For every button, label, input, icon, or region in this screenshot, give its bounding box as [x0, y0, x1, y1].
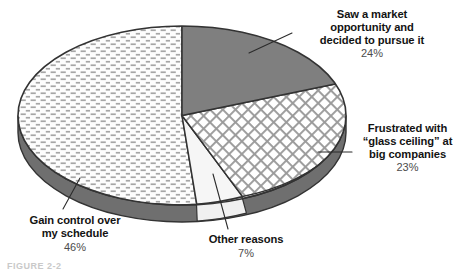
callout-other-reasons: Other reasons 7%: [186, 233, 306, 259]
callout-percent: 46%: [2, 241, 148, 254]
callout-market-opportunity: Saw a market opportunity and decided to …: [283, 8, 461, 60]
callout-glass-ceiling: Frustrated with “glass ceiling” at big c…: [352, 122, 463, 174]
callout-label-line: my schedule: [2, 227, 148, 240]
callout-percent: 24%: [283, 47, 461, 60]
callout-label-line: big companies: [352, 148, 463, 161]
figure-caption-fragment: FIGURE 2-2: [7, 261, 127, 269]
callout-label-line: decided to pursue it: [283, 34, 461, 47]
callout-percent: 7%: [186, 247, 306, 260]
callout-label-line: Other reasons: [186, 233, 306, 246]
callout-label-line: “glass ceiling” at: [352, 135, 463, 148]
callout-label-line: opportunity and: [283, 21, 461, 34]
callout-label-line: Saw a market: [283, 8, 461, 21]
callout-label-line: Gain control over: [2, 214, 148, 227]
callout-gain-control: Gain control over my schedule 46%: [2, 214, 148, 253]
pie-chart-figure: Saw a market opportunity and decided to …: [0, 0, 463, 269]
callout-label-line: Frustrated with: [352, 122, 463, 135]
callout-percent: 23%: [352, 161, 463, 174]
